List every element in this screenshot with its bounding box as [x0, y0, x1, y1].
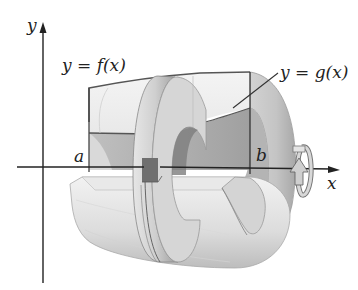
- f-curve-label: y = f(x): [62, 57, 126, 74]
- solid-of-revolution-figure: [0, 0, 358, 290]
- y-axis: [40, 22, 47, 283]
- x-axis-label: x: [327, 175, 337, 192]
- y-axis-label: y: [27, 17, 37, 34]
- g-curve-label: y = g(x): [280, 64, 348, 81]
- b-label: b: [256, 147, 267, 164]
- a-label: a: [74, 148, 84, 165]
